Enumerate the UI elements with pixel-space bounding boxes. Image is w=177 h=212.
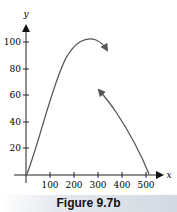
x-axis-label: x — [166, 170, 171, 180]
y-tick-20: 20 — [10, 143, 22, 153]
y-tick-100: 100 — [4, 37, 21, 47]
y-tick-80: 80 — [10, 64, 22, 74]
y-tick-60: 60 — [10, 90, 22, 100]
rising-curve — [27, 39, 107, 174]
figure-caption: Figure 9.7b — [0, 195, 177, 212]
figure-caption-bar: Figure 9.7b — [0, 195, 177, 212]
returning-curve — [99, 90, 149, 174]
x-tick-400: 400 — [113, 180, 130, 190]
x-tick-500: 500 — [137, 180, 154, 190]
x-tick-100: 100 — [41, 180, 58, 190]
y-tick-40: 40 — [10, 117, 22, 127]
x-tick-200: 200 — [65, 180, 82, 190]
y-axis-label: y — [22, 9, 29, 19]
chart-svg: y 100 80 60 40 20 x 100 200 300 4 — [0, 0, 177, 212]
x-tick-300: 300 — [89, 180, 106, 190]
figure: y 100 80 60 40 20 x 100 200 300 4 — [0, 0, 177, 212]
y-axis: y 100 80 60 40 20 — [4, 9, 30, 183]
